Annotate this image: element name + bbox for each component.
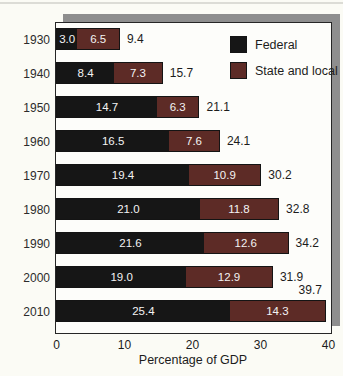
state-local-value-label: 7.3 bbox=[130, 67, 146, 79]
x-tick-label: 40 bbox=[312, 338, 343, 352]
state-local-segment: 10.9 bbox=[189, 165, 260, 185]
federal-value-label: 14.7 bbox=[96, 101, 118, 113]
year-label: 1980 bbox=[6, 203, 50, 217]
year-label: 1990 bbox=[6, 237, 50, 251]
total-value-label: 30.2 bbox=[268, 168, 291, 182]
federal-value-label: 25.4 bbox=[132, 305, 154, 317]
total-value-label: 31.9 bbox=[280, 270, 303, 284]
year-label: 1960 bbox=[6, 135, 50, 149]
year-label: 1970 bbox=[6, 169, 50, 183]
state-local-segment: 11.8 bbox=[200, 199, 278, 219]
total-value-label: 24.1 bbox=[227, 134, 250, 148]
state-local-value-label: 7.6 bbox=[186, 135, 202, 147]
x-tick-label: 20 bbox=[176, 338, 210, 352]
bar-row-1980: 21.011.8 bbox=[56, 198, 279, 220]
state-local-segment: 6.3 bbox=[157, 97, 199, 117]
total-value-label: 21.1 bbox=[206, 100, 229, 114]
total-value-label: 32.8 bbox=[286, 202, 309, 216]
state-local-segment: 12.9 bbox=[186, 267, 272, 287]
state-local-value-label: 12.6 bbox=[235, 237, 257, 249]
state-local-value-label: 6.3 bbox=[170, 101, 186, 113]
year-label: 1930 bbox=[6, 33, 50, 47]
year-label: 1940 bbox=[6, 67, 50, 81]
bar-row-1970: 19.410.9 bbox=[56, 164, 261, 186]
federal-segment: 21.0 bbox=[57, 199, 200, 219]
legend-label: Federal bbox=[255, 38, 297, 52]
federal-value-label: 3.0 bbox=[59, 33, 75, 45]
federal-segment: 8.4 bbox=[57, 63, 114, 83]
figure: Federal State and local 3.06.59.48.47.31… bbox=[0, 0, 343, 376]
federal-value-label: 21.0 bbox=[117, 203, 139, 215]
legend: Federal State and local bbox=[230, 36, 338, 88]
x-tick-label: 30 bbox=[244, 338, 278, 352]
state-local-value-label: 10.9 bbox=[213, 169, 235, 181]
x-tick-label: 0 bbox=[40, 338, 74, 352]
federal-value-label: 16.5 bbox=[102, 135, 124, 147]
bar-row-1930: 3.06.5 bbox=[56, 28, 120, 50]
state-local-value-label: 12.9 bbox=[218, 271, 240, 283]
state-local-value-label: 6.5 bbox=[90, 33, 106, 45]
federal-segment: 16.5 bbox=[57, 131, 169, 151]
federal-segment: 19.0 bbox=[57, 267, 186, 287]
federal-segment: 3.0 bbox=[57, 29, 77, 49]
plot-area: Federal State and local 3.06.59.48.47.31… bbox=[55, 22, 332, 334]
state-local-swatch bbox=[230, 62, 247, 79]
year-label: 2010 bbox=[6, 305, 50, 319]
total-value-label: 39.7 bbox=[274, 283, 322, 297]
x-tick-label: 10 bbox=[108, 338, 142, 352]
federal-segment: 21.6 bbox=[57, 233, 204, 253]
x-axis-title: Percentage of GDP bbox=[55, 353, 331, 367]
total-value-label: 34.2 bbox=[296, 236, 319, 250]
federal-segment: 19.4 bbox=[57, 165, 189, 185]
federal-value-label: 19.4 bbox=[112, 169, 134, 181]
bar-row-1990: 21.612.6 bbox=[56, 232, 289, 254]
state-local-segment: 12.6 bbox=[204, 233, 288, 253]
top-divider-line bbox=[0, 2, 343, 4]
legend-item-federal: Federal bbox=[230, 36, 338, 53]
state-local-segment: 7.3 bbox=[114, 63, 162, 83]
bar-row-1940: 8.47.3 bbox=[56, 62, 163, 84]
total-value-label: 15.7 bbox=[170, 66, 193, 80]
federal-swatch bbox=[230, 36, 247, 53]
federal-value-label: 19.0 bbox=[110, 271, 132, 283]
legend-item-state-local: State and local bbox=[230, 62, 338, 79]
federal-segment: 14.7 bbox=[57, 97, 157, 117]
state-local-value-label: 14.3 bbox=[266, 305, 288, 317]
year-label: 1950 bbox=[6, 101, 50, 115]
bar-row-1950: 14.76.3 bbox=[56, 96, 199, 118]
bar-row-1960: 16.57.6 bbox=[56, 130, 220, 152]
federal-value-label: 8.4 bbox=[78, 67, 94, 79]
state-local-value-label: 11.8 bbox=[228, 203, 250, 215]
federal-segment: 25.4 bbox=[57, 301, 230, 321]
state-local-segment: 7.6 bbox=[169, 131, 219, 151]
state-local-segment: 6.5 bbox=[77, 29, 119, 49]
bar-row-2000: 19.012.9 bbox=[56, 266, 273, 288]
legend-label: State and local bbox=[255, 64, 338, 78]
state-local-segment: 14.3 bbox=[230, 301, 325, 321]
year-label: 2000 bbox=[6, 271, 50, 285]
federal-value-label: 21.6 bbox=[119, 237, 141, 249]
total-value-label: 9.4 bbox=[127, 32, 144, 46]
bar-row-2010: 25.414.3 bbox=[56, 300, 326, 322]
